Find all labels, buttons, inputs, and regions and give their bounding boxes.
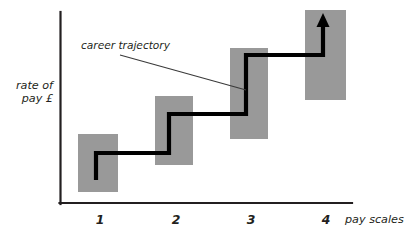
x-axis-label: pay scales [344, 213, 404, 226]
pay-band-3 [230, 48, 268, 139]
diagram-canvas: rate of pay £ career trajectory 1 2 3 4 … [0, 0, 412, 236]
x-tick-label-2: 2 [172, 212, 181, 227]
x-tick-label-4: 4 [321, 212, 331, 227]
y-axis-label-line1: rate of [16, 79, 55, 92]
x-tick-label-3: 3 [247, 212, 256, 227]
y-axis-label-line2: pay £ [21, 92, 54, 105]
pay-scale-bands [78, 10, 346, 192]
career-trajectory-diagram: rate of pay £ career trajectory 1 2 3 4 … [0, 0, 412, 236]
career-trajectory-annotation: career trajectory [81, 39, 171, 51]
x-tick-label-1: 1 [96, 212, 105, 227]
callout-leader-line [120, 55, 246, 90]
